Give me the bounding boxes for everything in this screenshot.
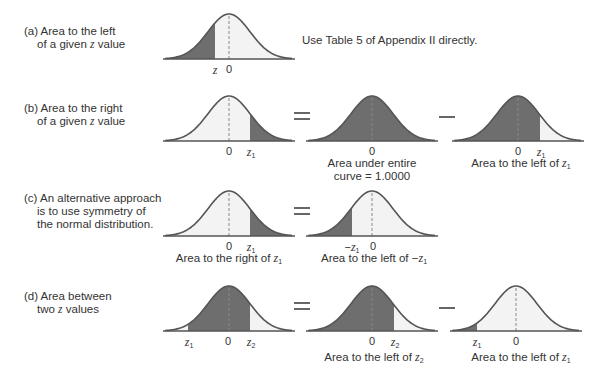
row-b-label-line2: of a given z value: [24, 115, 125, 128]
row-c-p2-caption: Area to the left of −z1: [321, 252, 427, 268]
row-c-label: (c) An alternative approach is to use sy…: [24, 192, 161, 231]
row-d-label-line2: two z values: [24, 303, 112, 316]
row-b-label: (b) Area to the right of a given z value: [24, 102, 125, 128]
row-a-note: Use Table 5 of Appendix II directly.: [302, 34, 477, 46]
row-d-p1-tick-z2: z2: [247, 335, 256, 350]
row-d-p1-tick-0: 0: [225, 335, 231, 347]
row-b-p2-tick-0: 0: [369, 145, 375, 157]
row-b-curve-1: [163, 96, 295, 141]
row-c-label-line2: is to use symmetry of: [24, 205, 161, 218]
row-a-tick-z: z: [213, 63, 218, 78]
row-d-p3-caption: Area to the left of z1: [471, 351, 570, 367]
minus-sign-icon: [439, 307, 455, 309]
row-d-p2-caption: Area to the left of z2: [324, 351, 423, 367]
row-c-p2-tick-0: 0: [370, 240, 376, 252]
row-c-curve-2: [306, 191, 438, 236]
row-a-label: (a) Area to the left of a given z value: [24, 25, 125, 51]
row-d-curve-2: [306, 286, 438, 331]
normal-curves-canvas: [0, 0, 599, 376]
row-d-p2-tick-z2: z2: [391, 335, 400, 350]
row-c-p1-tick-0: 0: [226, 240, 232, 252]
row-d-curve-1: [163, 286, 295, 331]
row-b-p3-caption: Area to the left of z1: [471, 157, 570, 173]
row-c-curve-1: [163, 191, 295, 236]
row-d-p2-tick-0: 0: [369, 335, 375, 347]
row-c-p1-caption: Area to the right of z1: [176, 252, 282, 268]
row-b-curve-2: [306, 96, 438, 141]
minus-sign-icon: [439, 116, 455, 118]
row-d-label-line1: (d) Area between: [24, 290, 112, 302]
row-a-label-line1: (a) Area to the left: [24, 25, 115, 37]
row-b-p3-tick-0: 0: [515, 145, 521, 157]
row-b-curve-3: [452, 96, 584, 141]
row-c-label-line1: (c) An alternative approach: [24, 192, 161, 204]
row-d-p1-tick-z1: z1: [185, 335, 194, 350]
row-d-p3-tick-0: 0: [513, 335, 519, 347]
row-a-tick-0: 0: [226, 63, 232, 75]
row-d-label: (d) Area between two z values: [24, 290, 112, 316]
row-d-curve-3: [450, 286, 582, 331]
row-a-label-line2: of a given z value: [24, 38, 125, 51]
row-c-label-line3: the normal distribution.: [24, 218, 161, 231]
row-b-p1-tick-z1: z1: [247, 145, 256, 160]
row-b-p2-caption: Area under entire curve = 1.0000: [328, 157, 417, 183]
row-b-label-line1: (b) Area to the right: [24, 102, 122, 114]
row-b-p1-tick-0: 0: [226, 145, 232, 157]
row-a-curve: [163, 14, 295, 59]
row-d-p3-tick-z1: z1: [473, 335, 482, 350]
